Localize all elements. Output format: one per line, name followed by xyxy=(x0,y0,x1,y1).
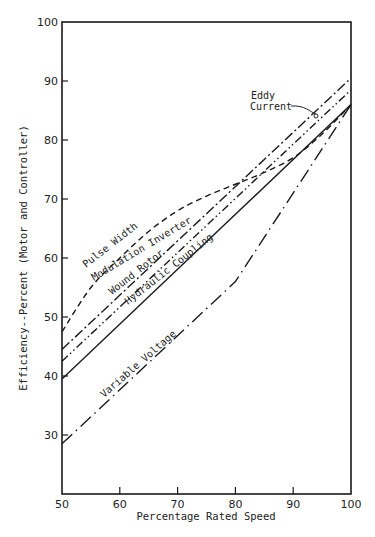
y-tick-label: 80 xyxy=(44,134,58,147)
y-tick-label: 100 xyxy=(37,16,58,29)
y-tick-label: 50 xyxy=(44,311,58,324)
y-tick-label: 40 xyxy=(44,370,58,383)
plot-border xyxy=(62,22,351,494)
x-tick-label: 100 xyxy=(341,498,362,511)
series-line-hydraulic-coupling xyxy=(62,90,351,361)
x-tick-label: 90 xyxy=(286,498,300,511)
y-tick-label: 90 xyxy=(44,75,58,88)
y-tick-label: 60 xyxy=(44,252,58,265)
label-eddy-current-2: Current xyxy=(250,101,292,112)
x-tick-label: 50 xyxy=(55,498,69,511)
series-line-pulse-width-modulation-inverter xyxy=(62,105,351,332)
label-eddy-current-1: Eddy xyxy=(251,90,275,101)
plot-frame xyxy=(62,22,351,494)
x-axis-title: Percentage Rated Speed xyxy=(136,510,275,522)
efficiency-chart: 506070809010030405060708090100 Pulse Wid… xyxy=(0,0,375,537)
eddy-current-callout-dot xyxy=(314,114,318,118)
eddy-current-callout-arrow xyxy=(291,106,316,114)
x-tick-label: 60 xyxy=(113,498,127,511)
y-tick-label: 30 xyxy=(44,429,58,442)
label-variable-voltage: Variable Voltage xyxy=(98,328,178,399)
y-tick-label: 70 xyxy=(44,193,58,206)
y-axis-title: Efficiency--Percent (Motor and Controlle… xyxy=(17,125,29,391)
